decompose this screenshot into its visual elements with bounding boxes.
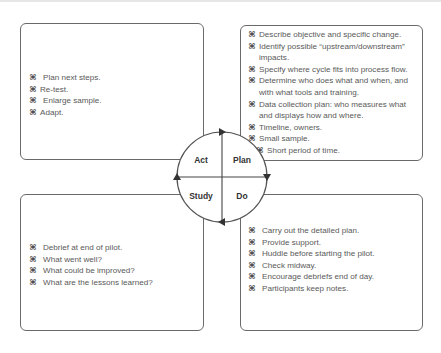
bullet-icon: ⌘ bbox=[248, 283, 255, 295]
bullet-icon: ⌘ bbox=[29, 265, 36, 277]
bullet-icon: ⌘ bbox=[29, 107, 36, 119]
list-item: ⌘Describe objective and specific change. bbox=[248, 29, 408, 41]
act-box: ⌘Plan next steps. ⌘Re-test. ⌘Enlarge sam… bbox=[20, 23, 204, 160]
bullet-icon: ⌘ bbox=[248, 122, 255, 134]
bullet-icon: ⌘ bbox=[29, 254, 36, 266]
list-item: ⌘Participants keep notes. bbox=[248, 283, 374, 295]
bullet-icon: ⌘ bbox=[248, 133, 255, 145]
list-item: ⌘Encourage debriefs end of day. bbox=[248, 271, 374, 283]
bullet-icon: ⌘ bbox=[248, 248, 255, 260]
list-item: ⌘Data collection plan: who measures what bbox=[248, 99, 408, 111]
list-item: ⌘Identify possible “upstream/downstream” bbox=[248, 41, 408, 53]
bullet-icon: ⌘ bbox=[29, 95, 36, 107]
bullet-icon: ⌘ bbox=[29, 84, 36, 96]
list-item: ⌘Huddle before starting the pilot. bbox=[248, 248, 374, 260]
bullet-icon: ⌘ bbox=[248, 64, 255, 76]
arrow-left-icon bbox=[218, 218, 225, 226]
study-list: ⌘Debrief at end of pilot. ⌘What went wel… bbox=[29, 242, 153, 288]
bullet-icon: ⌘ bbox=[248, 260, 255, 272]
bullet-icon: ⌘ bbox=[29, 242, 36, 254]
do-list: ⌘Carry out the detailed plan. ⌘Provide s… bbox=[248, 225, 374, 295]
quadrant-label-do: Do bbox=[236, 191, 247, 201]
arrow-right-icon bbox=[219, 128, 226, 136]
arrow-up-icon bbox=[173, 173, 181, 180]
bullet-icon: ⌘ bbox=[248, 225, 255, 237]
list-item: ⌘What are the lessons learned? bbox=[29, 277, 153, 289]
list-item: ⌘Specify where cycle fits into process f… bbox=[248, 64, 408, 76]
bullet-icon: ⌘ bbox=[248, 41, 255, 53]
list-subitem: ⌘Short period of time. bbox=[248, 145, 408, 157]
list-item: ⌘Timeline, owners. bbox=[248, 122, 408, 134]
list-item: ⌘Enlarge sample. bbox=[29, 95, 102, 107]
list-item: ⌘Re-test. bbox=[29, 84, 102, 96]
list-item: ⌘Carry out the detailed plan. bbox=[248, 225, 374, 237]
list-item: ⌘Debrief at end of pilot. bbox=[29, 242, 153, 254]
bullet-icon: ⌘ bbox=[29, 277, 36, 289]
bullet-icon: ⌘ bbox=[248, 29, 255, 41]
do-box: ⌘Carry out the detailed plan. ⌘Provide s… bbox=[240, 194, 423, 331]
quadrant-label-study: Study bbox=[189, 191, 213, 201]
list-item: ⌘Adapt. bbox=[29, 107, 102, 119]
list-item: ⌘Determine who does what and when, and bbox=[248, 75, 408, 87]
bullet-icon: ⌘ bbox=[248, 75, 255, 87]
list-item: ⌘Small sample. bbox=[248, 133, 408, 145]
list-item: ⌘Check midway. bbox=[248, 260, 374, 272]
list-item: ⌘Provide support. bbox=[248, 237, 374, 249]
act-list: ⌘Plan next steps. ⌘Re-test. ⌘Enlarge sam… bbox=[29, 72, 102, 118]
quadrant-label-act: Act bbox=[194, 155, 208, 165]
bullet-icon: ⌘ bbox=[256, 145, 263, 157]
list-item: ⌘What went well? bbox=[29, 254, 153, 266]
arrow-down-icon bbox=[263, 174, 271, 181]
list-item: ⌘What could be improved? bbox=[29, 265, 153, 277]
list-item-continuation: and displays how and where. bbox=[248, 110, 408, 122]
plan-list: ⌘Describe objective and specific change.… bbox=[248, 29, 408, 157]
plan-box: ⌘Describe objective and specific change.… bbox=[240, 25, 423, 161]
top-divider bbox=[0, 0, 441, 2]
quadrant-label-plan: Plan bbox=[233, 155, 251, 165]
list-item-continuation: impacts. bbox=[248, 52, 408, 64]
list-item: ⌘Plan next steps. bbox=[29, 72, 102, 84]
bullet-icon: ⌘ bbox=[248, 237, 255, 249]
bullet-icon: ⌘ bbox=[29, 72, 36, 84]
bullet-icon: ⌘ bbox=[248, 271, 255, 283]
list-item-continuation: with what tools and training. bbox=[248, 87, 408, 99]
bullet-icon: ⌘ bbox=[248, 99, 255, 111]
study-box: ⌘Debrief at end of pilot. ⌘What went wel… bbox=[20, 194, 204, 331]
